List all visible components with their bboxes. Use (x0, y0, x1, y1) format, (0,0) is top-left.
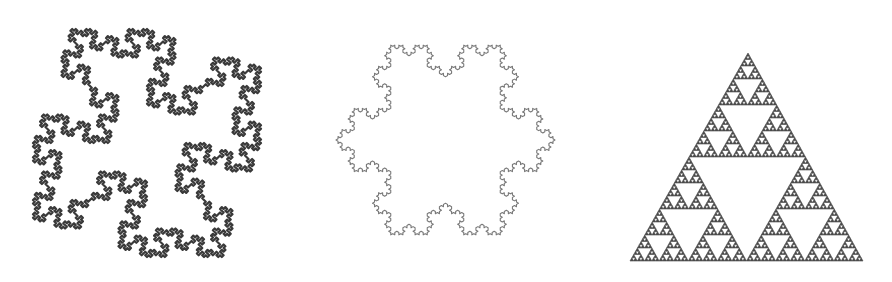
sierpinski-triangle-path (630, 53, 863, 261)
sierpinski-triangle-graphic (0, 0, 892, 282)
sierpinski-triangle-figure (0, 0, 892, 282)
